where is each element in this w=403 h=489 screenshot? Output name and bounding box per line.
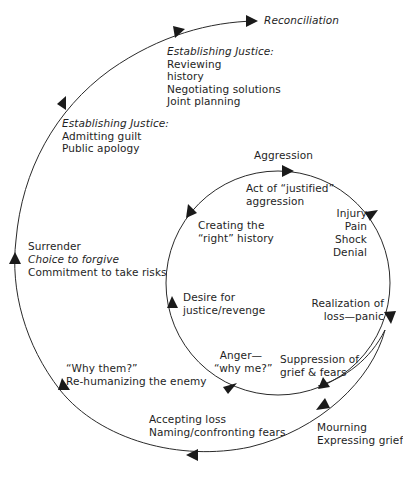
shock-label: Shock (327, 233, 367, 246)
why-them-block: “Why them?” Re-humanizing the enemy (66, 362, 207, 388)
arrow-icon (246, 15, 258, 27)
anger-label: “why me?” (214, 362, 268, 375)
injury-block: Injury Pain Shock Denial (327, 207, 367, 259)
justice-apology-block: Establishing Justice: Admitting guilt Pu… (62, 117, 169, 155)
suppression-label: grief & fears (280, 366, 359, 379)
act-of-aggression-block: Act of “justified” aggression (246, 182, 334, 208)
surrender-block: Surrender Choice to forgive Commitment t… (28, 240, 167, 278)
desire-label: Desire for (183, 291, 265, 304)
reconciliation-label: Reconciliation (264, 14, 339, 27)
arrow-icon (57, 96, 66, 110)
justice-item: Reviewing (167, 58, 281, 71)
aggression-label: Aggression (254, 149, 313, 162)
creating-label: “right” history (198, 232, 274, 245)
why-them-label: “Why them?” (66, 362, 207, 375)
arrow-icon (167, 296, 178, 308)
surrender-label: Surrender (28, 240, 167, 253)
injury-label: Injury (327, 207, 367, 220)
arrow-icon (282, 165, 294, 177)
mourning-block: Mourning Expressing grief (317, 421, 403, 447)
act-label: Act of “justified” (246, 182, 334, 195)
anger-label: Anger— (214, 349, 268, 362)
justice-item: Admitting guilt (62, 130, 169, 143)
suppression-block: Suppression of grief & fears (280, 353, 359, 379)
justice-item: Negotiating solutions (167, 83, 281, 96)
accepting-loss-block: Accepting loss Naming/confronting fears (149, 413, 285, 439)
justice-item: Joint planning (167, 95, 281, 108)
expressing-grief-label: Expressing grief (317, 434, 403, 447)
choice-to-forgive-label: Choice to forgive (28, 253, 167, 266)
justice-heading: Establishing Justice: (62, 117, 169, 130)
arrow-icon (186, 204, 197, 218)
realization-label: loss—panic (300, 310, 384, 323)
justice-item: history (167, 70, 281, 83)
desire-block: Desire for justice/revenge (183, 291, 265, 317)
pain-label: Pain (327, 220, 367, 233)
naming-fears-label: Naming/confronting fears (149, 426, 285, 439)
rehumanizing-label: Re-humanizing the enemy (66, 375, 207, 388)
arrow-icon (9, 252, 21, 264)
creating-label: Creating the (198, 219, 274, 232)
mourning-label: Mourning (317, 421, 403, 434)
justice-heading: Establishing Justice: (167, 45, 281, 58)
realization-label: Realization of (300, 297, 384, 310)
anger-block: Anger— “why me?” (214, 349, 268, 375)
realization-block: Realization of loss—panic (300, 297, 384, 323)
accepting-loss-label: Accepting loss (149, 413, 285, 426)
arrow-icon (316, 398, 330, 410)
desire-label: justice/revenge (183, 304, 265, 317)
commitment-label: Commitment to take risks (28, 266, 167, 279)
justice-item: Public apology (62, 142, 169, 155)
arrow-icon (173, 26, 185, 38)
act-label: aggression (246, 195, 334, 208)
creating-history-block: Creating the “right” history (198, 219, 274, 245)
justice-negotiation-block: Establishing Justice: Reviewing history … (167, 45, 281, 108)
suppression-label: Suppression of (280, 353, 359, 366)
arrow-icon (384, 311, 396, 324)
denial-label: Denial (327, 246, 367, 259)
